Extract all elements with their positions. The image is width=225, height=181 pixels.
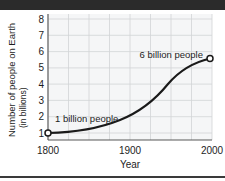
x-axis-title: Year — [120, 159, 141, 170]
y-tick-label-7: 7 — [38, 30, 44, 41]
x-tick-label-2000: 2000 — [201, 145, 224, 156]
y-tick-label-5: 5 — [38, 62, 44, 73]
line-chart: Number of people on Earth (in billions) … — [0, 0, 225, 181]
y-tick-label-4: 4 — [38, 79, 44, 90]
y-tick-label-2: 2 — [38, 111, 44, 122]
y-tick-label-6: 6 — [38, 46, 44, 57]
data-marker-1800 — [45, 130, 51, 136]
y-tick-label-1: 1 — [38, 128, 44, 139]
data-marker-2000 — [207, 56, 213, 62]
x-tick-label-1800: 1800 — [37, 145, 60, 156]
y-axis-subtitle: (in billions) — [18, 87, 28, 128]
annotation-start-label: 1 billion people — [55, 113, 118, 124]
annotation-end-label: 6 billion people — [140, 49, 203, 60]
population-growth-figure: Number of people on Earth (in billions) … — [0, 0, 225, 181]
y-tick-label-8: 8 — [38, 14, 44, 25]
y-axis-title: Number of people on Earth — [6, 23, 17, 137]
y-tick-label-3: 3 — [38, 95, 44, 106]
x-tick-label-1900: 1900 — [119, 145, 142, 156]
